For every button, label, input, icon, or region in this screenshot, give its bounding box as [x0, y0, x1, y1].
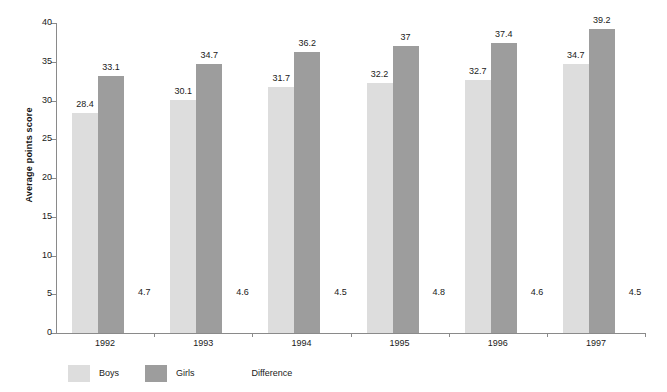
bar-boys: 32.7: [465, 80, 491, 333]
bar-girls: 37: [393, 46, 419, 333]
legend-label: Difference: [252, 367, 293, 379]
difference-value-label: 4.6: [236, 287, 249, 298]
difference-value-label: 4.5: [334, 287, 347, 298]
x-axis-category-label: 1995: [351, 337, 449, 349]
difference-value-label: 4.6: [531, 287, 544, 298]
bar-group: 32.737.4: [465, 23, 517, 333]
legend-item[interactable]: Difference: [221, 365, 293, 382]
legend-swatch: [68, 365, 90, 382]
bar-girls: 36.2: [294, 52, 320, 333]
bar-value-label-boys: 34.7: [567, 50, 585, 61]
bar-girls: 33.1: [98, 76, 124, 333]
y-axis-tick-label: 15: [42, 210, 52, 223]
y-axis-tick-label: 10: [42, 249, 52, 262]
bar-value-label-girls: 39.2: [593, 15, 611, 26]
difference-value-label: 4.8: [433, 287, 446, 298]
legend-label: Girls: [176, 367, 195, 379]
y-axis-tick-label: 30: [42, 94, 52, 107]
x-axis-tick-mark: [645, 333, 646, 337]
bar-group: 30.134.7: [170, 23, 222, 333]
bar-girls: 34.7: [196, 64, 222, 333]
difference-value-label: 4.7: [138, 287, 151, 298]
difference-value-label: 4.5: [629, 287, 642, 298]
bar-girls: 37.4: [491, 43, 517, 333]
y-axis-tick-label: 20: [42, 171, 52, 184]
bar-value-label-boys: 32.2: [371, 69, 389, 80]
chart-legend: BoysGirlsDifference: [68, 363, 318, 383]
bar-value-label-girls: 36.2: [299, 38, 317, 49]
bar-group: 31.736.2: [268, 23, 320, 333]
y-axis-tick-label: 40: [42, 16, 52, 29]
legend-swatch: [145, 365, 167, 382]
bar-value-label-girls: 37: [400, 32, 410, 43]
y-axis-tick-label: 35: [42, 55, 52, 68]
bar-boys: 28.4: [72, 113, 98, 333]
bar-girls: 39.2: [589, 29, 615, 333]
y-axis-tick-label: 0: [47, 326, 52, 339]
bar-group: 34.739.2: [563, 23, 615, 333]
legend-swatch: [221, 365, 243, 382]
bar-boys: 30.1: [170, 100, 196, 333]
x-axis-category-label: 1992: [56, 337, 154, 349]
bar-group: 28.433.1: [72, 23, 124, 333]
x-axis-category-label: 1994: [252, 337, 350, 349]
chart-container: Average points score 0510152025303540 28…: [0, 0, 667, 392]
x-axis-category-label: 1997: [547, 337, 645, 349]
y-axis-title: Average points score: [22, 0, 36, 310]
bar-value-label-boys: 30.1: [174, 86, 192, 97]
bar-boys: 31.7: [268, 87, 294, 333]
legend-label: Boys: [99, 367, 119, 379]
x-axis-category-label: 1996: [449, 337, 547, 349]
bar-value-label-girls: 34.7: [200, 50, 218, 61]
y-axis-line: [56, 23, 57, 333]
bar-group: 32.237: [367, 23, 419, 333]
legend-item[interactable]: Girls: [145, 365, 195, 382]
bar-value-label-girls: 37.4: [495, 29, 513, 40]
x-axis-category-label: 1993: [154, 337, 252, 349]
bar-value-label-girls: 33.1: [102, 62, 120, 73]
plot-area: 0510152025303540 28.433.14.730.134.74.63…: [56, 23, 645, 333]
bar-value-label-boys: 32.7: [469, 66, 487, 77]
bar-boys: 34.7: [563, 64, 589, 333]
y-axis-tick-label: 5: [47, 287, 52, 300]
legend-item[interactable]: Boys: [68, 365, 119, 382]
bar-value-label-boys: 28.4: [76, 99, 94, 110]
y-axis-tick-label: 25: [42, 132, 52, 145]
bar-value-label-boys: 31.7: [273, 73, 291, 84]
bar-boys: 32.2: [367, 83, 393, 333]
